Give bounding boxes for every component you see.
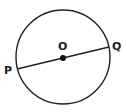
label-o: O (58, 40, 67, 53)
center-point-o (60, 55, 66, 61)
label-q: Q (112, 40, 121, 53)
label-p: P (4, 64, 12, 77)
circle-diagram: O P Q (0, 0, 127, 112)
